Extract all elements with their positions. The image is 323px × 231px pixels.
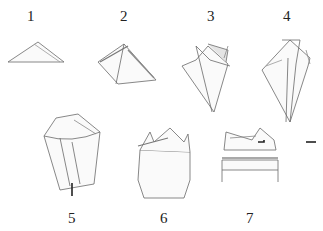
fold-arrows: [72, 140, 316, 196]
step-1-label: 1: [27, 9, 35, 24]
step-4-figure: [262, 40, 310, 122]
step-7-label: 7: [246, 211, 254, 226]
step-6-figure: [138, 128, 190, 198]
folding-diagram: [0, 0, 323, 231]
step-2-figure: [98, 44, 156, 84]
step-7-figure: [222, 128, 278, 182]
step-2-label: 2: [120, 9, 128, 24]
step-4-label: 4: [283, 9, 291, 24]
step-1-figure: [8, 42, 64, 62]
step-3-label: 3: [207, 9, 215, 24]
step-3-figure: [182, 44, 230, 112]
step-5-label: 5: [68, 211, 76, 226]
step-5-figure: [44, 114, 100, 190]
step-6-label: 6: [160, 211, 168, 226]
